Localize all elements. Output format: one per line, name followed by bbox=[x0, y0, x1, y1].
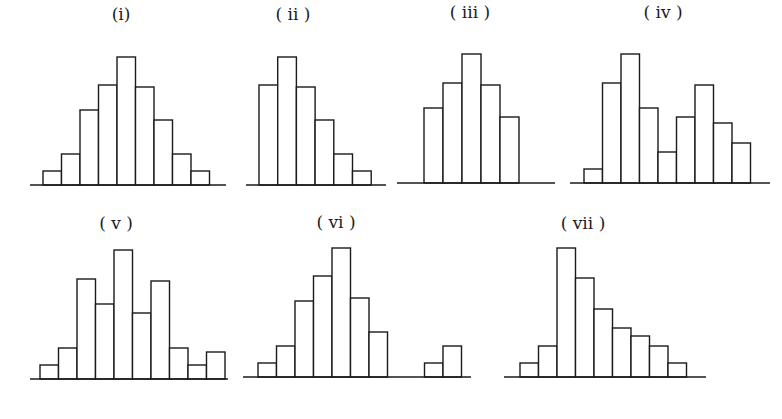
histogram-label-ii: ( ii ) bbox=[276, 4, 311, 24]
histogram-bar bbox=[351, 298, 370, 377]
histogram-bar bbox=[732, 143, 751, 183]
histogram-bar bbox=[99, 85, 118, 185]
histogram-bar bbox=[80, 110, 99, 185]
histogram-bar bbox=[96, 304, 115, 379]
histogram-bar bbox=[259, 85, 278, 185]
histogram-vi: ( vi ) bbox=[243, 212, 471, 377]
histogram-bar bbox=[295, 301, 314, 377]
histogram-bar bbox=[77, 279, 96, 379]
histogram-bar bbox=[117, 57, 136, 185]
histogram-bar bbox=[188, 365, 207, 379]
histogram-bar bbox=[40, 365, 59, 379]
histogram-bar bbox=[631, 336, 650, 377]
histogram-bar bbox=[191, 171, 210, 185]
histogram-bar bbox=[714, 123, 733, 183]
histogram-bar bbox=[353, 171, 372, 185]
histogram-iii: ( iii ) bbox=[397, 2, 555, 183]
histogram-i: (i) bbox=[30, 4, 226, 185]
histogram-bar bbox=[668, 363, 687, 377]
histogram-bar bbox=[443, 346, 462, 377]
histogram-bar bbox=[59, 348, 78, 379]
histogram-bar bbox=[114, 250, 133, 379]
histogram-bar bbox=[425, 363, 444, 377]
histogram-label-vii: ( vii ) bbox=[561, 213, 606, 233]
histogram-bar bbox=[43, 171, 62, 185]
histogram-bar bbox=[170, 348, 189, 379]
histogram-bar bbox=[151, 281, 170, 379]
histogram-label-v: ( v ) bbox=[99, 213, 133, 233]
histogram-bar bbox=[481, 85, 500, 183]
histogram-bar bbox=[658, 152, 677, 183]
histogram-bar bbox=[539, 346, 558, 377]
histogram-bar bbox=[154, 120, 173, 185]
histogram-bar bbox=[424, 108, 443, 183]
histogram-vii: ( vii ) bbox=[504, 213, 706, 377]
histogram-bar bbox=[640, 108, 659, 183]
histogram-bar bbox=[334, 154, 353, 185]
histogram-bar bbox=[677, 117, 696, 183]
histogram-bar bbox=[443, 83, 462, 183]
histogram-label-iii: ( iii ) bbox=[450, 2, 490, 22]
histogram-bar bbox=[207, 352, 226, 379]
histogram-bar bbox=[500, 117, 519, 183]
histogram-label-i: (i) bbox=[112, 4, 131, 24]
histogram-label-vi: ( vi ) bbox=[316, 212, 355, 232]
histogram-bar bbox=[557, 248, 576, 377]
histogram-bar bbox=[258, 363, 277, 377]
histogram-bar bbox=[332, 248, 351, 377]
histogram-bar bbox=[62, 154, 81, 185]
histogram-bar bbox=[650, 346, 669, 377]
histogram-bar bbox=[278, 57, 297, 185]
histogram-bar bbox=[520, 363, 539, 377]
histogram-figure: (i) ( ii ) ( iii ) ( iv ) ( v ) ( vi ) (… bbox=[0, 0, 782, 419]
histogram-bar bbox=[136, 87, 155, 185]
histogram-bar bbox=[462, 54, 481, 183]
histogram-label-iv: ( iv ) bbox=[643, 2, 682, 22]
histogram-bar bbox=[133, 313, 152, 379]
histogram-iv: ( iv ) bbox=[570, 2, 770, 183]
histogram-bar bbox=[594, 309, 613, 377]
histogram-bar bbox=[296, 87, 315, 185]
histogram-v: ( v ) bbox=[30, 213, 228, 379]
histogram-bar bbox=[369, 332, 388, 377]
histogram-bar bbox=[315, 120, 334, 185]
histogram-bar bbox=[173, 154, 192, 185]
histogram-bar bbox=[613, 328, 632, 377]
histogram-bar bbox=[277, 346, 296, 377]
histogram-bar bbox=[314, 276, 333, 377]
histogram-bar bbox=[576, 278, 595, 377]
histogram-ii: ( ii ) bbox=[246, 4, 386, 185]
histogram-bar bbox=[621, 54, 640, 183]
histogram-bar bbox=[603, 83, 622, 183]
histogram-bar bbox=[695, 85, 714, 183]
histogram-bar bbox=[584, 169, 603, 183]
